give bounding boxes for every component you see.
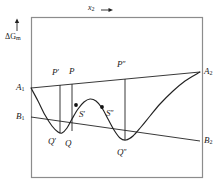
label-B2: B2 — [204, 136, 213, 145]
x-axis-arrow-icon — [101, 8, 113, 12]
label-P-dblprime-prime: ″ — [123, 60, 126, 69]
label-Q-text: Q — [65, 138, 72, 148]
label-P-prime: P′ — [52, 68, 59, 77]
label-P: P — [69, 67, 75, 76]
label-P-prime-prime: ′ — [58, 68, 60, 77]
label-Q-prime-prime: ′ — [55, 137, 57, 146]
x-axis-label: x2 — [88, 4, 95, 12]
label-B2-subscript: 2 — [210, 139, 213, 145]
y-axis-label: ΔGm — [5, 33, 21, 41]
y-axis-arrow-icon — [15, 19, 19, 32]
label-P-text: P — [69, 66, 75, 76]
label-A2-subscript: 2 — [210, 70, 213, 76]
spinodal-point-S-dblprime — [100, 105, 104, 109]
label-A2: A2 — [204, 67, 213, 76]
label-S-dblprime: S″ — [106, 109, 114, 118]
label-Q-dblprime-prime: ″ — [124, 148, 127, 157]
label-Q: Q — [65, 139, 72, 148]
label-P-dblprime: P″ — [117, 60, 126, 69]
diagram-svg — [0, 0, 219, 189]
label-Q-dblprime: Q″ — [117, 148, 127, 157]
figure-canvas: ΔGm x2 A1A2B1B2P′PP″Q′QQ″S′S″ — [0, 0, 219, 189]
label-Q-prime: Q′ — [48, 137, 56, 146]
label-S-dblprime-prime: ″ — [111, 109, 114, 118]
label-A1-subscript: 1 — [22, 86, 25, 92]
free-energy-curve — [31, 72, 200, 140]
spinodal-point-S-prime — [74, 103, 78, 107]
label-S-prime: S′ — [79, 110, 85, 119]
label-B1: B1 — [16, 112, 25, 121]
label-B1-subscript: 1 — [22, 115, 25, 121]
label-S-prime-prime: ′ — [84, 110, 86, 119]
label-A1: A1 — [16, 83, 25, 92]
lower-tangent-line — [31, 117, 200, 141]
